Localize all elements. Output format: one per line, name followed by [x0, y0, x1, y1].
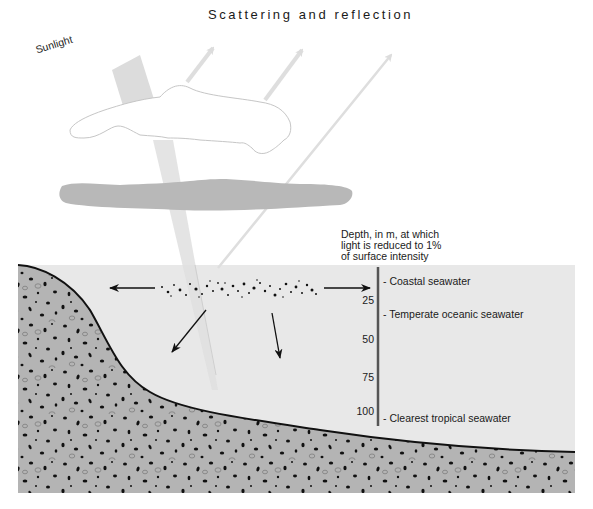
- diagram-title: Scattering and reflection: [208, 7, 413, 22]
- label-temperate-oceanic-seawater: - Temperate oceanic seawater: [383, 308, 523, 320]
- cloud-icon: [70, 86, 291, 154]
- light-penetration-diagram: Scattering and reflection Sunlight Depth…: [0, 0, 593, 509]
- depth-tick-50: 50: [344, 333, 374, 345]
- depth-tick-25: 25: [344, 294, 374, 306]
- depth-header: Depth, in m, at which light is reduced t…: [341, 229, 441, 262]
- depth-tick-100: 100: [344, 405, 374, 417]
- reflection-arrow-2: [265, 50, 302, 100]
- label-coastal-seawater: - Coastal seawater: [383, 275, 471, 287]
- diagram-canvas: [0, 0, 593, 509]
- depth-tick-75: 75: [344, 371, 374, 383]
- label-clearest-tropical-seawater: - Clearest tropical seawater: [383, 412, 511, 424]
- reflection-arrow-1: [187, 48, 213, 82]
- depth-header-line-3: of surface intensity: [341, 251, 441, 262]
- haze-layer: [59, 179, 352, 211]
